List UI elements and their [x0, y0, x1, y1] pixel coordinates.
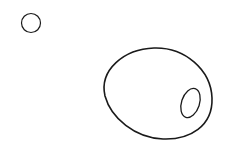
small-circle [22, 14, 41, 33]
drawing-canvas [0, 0, 236, 168]
inner-ellipse [177, 86, 203, 120]
large-egg-shape [104, 48, 212, 139]
